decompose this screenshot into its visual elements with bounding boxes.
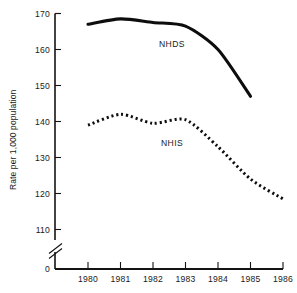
y-tick-label-120: 120 xyxy=(35,189,50,199)
x-tick-label-1985: 1985 xyxy=(241,274,261,284)
x-tick-label-1986: 1986 xyxy=(273,274,293,284)
y-tick-label-170: 170 xyxy=(35,9,50,19)
x-tick-label-1983: 1983 xyxy=(176,274,196,284)
series-line-nhis xyxy=(88,114,283,199)
y-tick-label-110: 110 xyxy=(36,225,50,235)
line-chart: Rate per 1,000 population 170 160 150 xyxy=(0,0,297,293)
y-tick-label-130: 130 xyxy=(35,153,50,163)
x-axis-ticks: 1980 1981 1982 1983 1984 1985 1986 xyxy=(78,262,293,284)
x-tick-label-1984: 1984 xyxy=(208,274,228,284)
series-label-nhis: NHIS xyxy=(161,138,183,148)
y-tick-label-160: 160 xyxy=(35,45,50,55)
series-line-nhds xyxy=(88,19,251,96)
x-tick-label-1980: 1980 xyxy=(78,274,98,284)
y-tick-label-150: 150 xyxy=(35,81,50,91)
chart-container: Rate per 1,000 population 170 160 150 xyxy=(0,0,297,293)
y-tick-label-0: 0 xyxy=(45,264,50,274)
x-tick-label-1981: 1981 xyxy=(111,274,131,284)
series-label-nhds: NHDS xyxy=(159,39,185,49)
x-tick-label-1982: 1982 xyxy=(143,274,163,284)
y-tick-label-140: 140 xyxy=(35,117,50,127)
y-axis-title: Rate per 1,000 population xyxy=(8,90,18,190)
y-axis-ticks: 170 160 150 140 130 120 110 0 xyxy=(35,9,61,275)
y-axis-title-text: Rate per 1,000 population xyxy=(8,90,18,190)
